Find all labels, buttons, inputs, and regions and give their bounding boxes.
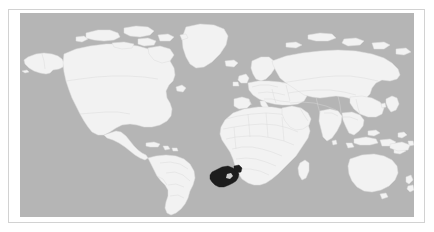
world-map-canvas [20,13,414,217]
world-map-figure [0,0,434,232]
region-australia [348,142,414,199]
region-south-africa-highlight [210,165,242,187]
region-south-america [148,155,195,215]
region-north-atlantic-islands [225,60,249,86]
region-north-america [22,26,186,160]
region-greenland [180,24,228,68]
world-map-svg [20,13,414,217]
